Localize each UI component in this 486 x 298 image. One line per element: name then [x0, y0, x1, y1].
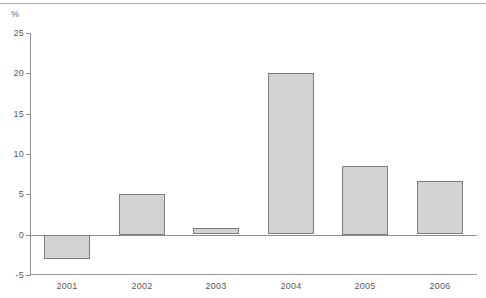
y-tick-label: 5	[19, 189, 24, 199]
x-tick-label-2006: 2006	[430, 281, 451, 291]
y-tick-label: 15	[14, 109, 24, 119]
bar-2006	[417, 181, 463, 234]
y-tick-label: 0	[19, 230, 24, 240]
y-tick-mark	[26, 275, 31, 276]
y-tick-mark	[26, 33, 31, 34]
plot-area: 2520151050-5	[30, 33, 477, 275]
y-tick-label: 25	[14, 28, 24, 38]
y-tick-mark	[26, 154, 31, 155]
bar-2001	[44, 235, 90, 259]
top-divider-rule	[0, 3, 486, 4]
bar-2005	[342, 166, 388, 235]
bar-2003	[193, 228, 239, 234]
bar-chart-figure: % 2520151050-5 200120022003200420052006	[0, 0, 486, 298]
zero-baseline	[30, 235, 477, 236]
y-tick-label: 10	[14, 149, 24, 159]
x-tick-label-2005: 2005	[355, 281, 376, 291]
x-tick-label-2003: 2003	[206, 281, 227, 291]
x-tick-label-2004: 2004	[281, 281, 302, 291]
x-tick-label-2002: 2002	[132, 281, 153, 291]
bar-2004	[268, 73, 314, 234]
x-axis-frame-line	[30, 274, 477, 275]
y-tick-mark	[26, 73, 31, 74]
y-tick-mark	[26, 194, 31, 195]
y-axis-unit-label: %	[11, 9, 19, 20]
bar-2002	[119, 194, 165, 235]
y-tick-label: 20	[14, 68, 24, 78]
y-tick-label: -5	[16, 270, 24, 280]
y-tick-mark	[26, 235, 31, 236]
y-tick-mark	[26, 114, 31, 115]
x-tick-label-2001: 2001	[57, 281, 78, 291]
